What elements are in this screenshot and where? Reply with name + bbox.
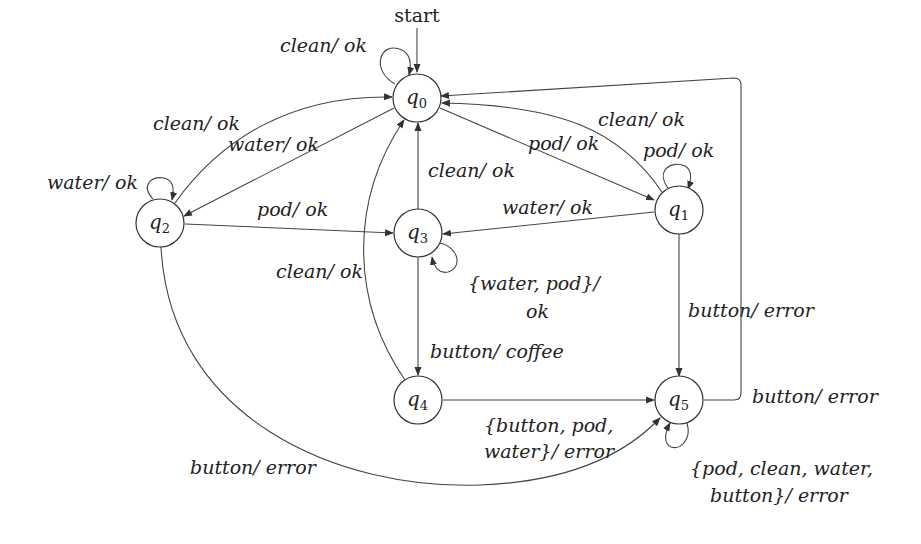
label-q0-q0: clean/ ok [280, 34, 367, 56]
state-q0: q0 [393, 74, 441, 122]
label-q2-q0: clean/ ok [153, 112, 240, 134]
label-q2-q2: water/ ok [47, 171, 138, 193]
state-q5: q5 [655, 376, 703, 424]
label-q5-q0: button/ error [752, 385, 880, 407]
label-q1-q0: clean/ ok [598, 108, 685, 130]
edge-q1-q1 [663, 164, 690, 189]
label-q5-q5-line1: {pod, clean, water, [690, 457, 873, 479]
label-q1-q1: pod/ ok [643, 139, 714, 161]
label-q2-q3: pod/ ok [257, 198, 328, 220]
label-q0-q1: pod/ ok [528, 132, 599, 154]
label-q2-q5: button/ error [190, 456, 318, 478]
label-q3-q3-line2: ok [526, 300, 549, 322]
label-q4-q5-line1: {button, pod, [484, 414, 613, 436]
state-diagram: start clean/ ok pod/ ok water/ ok clean/… [0, 0, 921, 544]
edge-q4-q0 [364, 120, 405, 380]
state-q2: q2 [136, 199, 184, 247]
edge-q2-q2 [147, 178, 173, 200]
label-q1-q3: water/ ok [502, 196, 593, 218]
state-q3: q3 [394, 209, 442, 257]
state-q4: q4 [394, 376, 442, 424]
start-label: start [394, 4, 440, 26]
label-q3-q0: clean/ ok [428, 159, 515, 181]
label-q1-q5: button/ error [688, 299, 816, 321]
label-q5-q5-line2: button}/ error [710, 484, 850, 506]
edge-q5-q5 [666, 423, 689, 448]
label-q0-q2: water/ ok [228, 133, 319, 155]
label-q3-q3-line1: {water, pod}/ [468, 272, 601, 294]
edge-q2-q3 [185, 224, 393, 233]
state-q1: q1 [655, 186, 703, 234]
label-q3-q4: button/ coffee [430, 340, 564, 362]
label-q4-q5-line2: water}/ error [484, 440, 616, 462]
label-q4-q0: clean/ ok [276, 260, 363, 282]
